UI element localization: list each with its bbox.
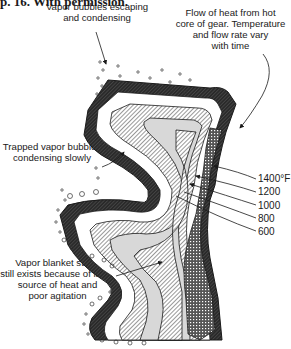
arrow-vapor-escaping (96, 32, 106, 64)
gear-tooth-quench-diagram (0, 0, 291, 349)
arrow-heat-flow (240, 54, 269, 128)
arrow-1400 (214, 166, 256, 179)
